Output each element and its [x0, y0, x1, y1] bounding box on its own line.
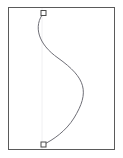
bezier-curve-path[interactable]: [38, 13, 83, 145]
anchor-point-start[interactable]: [41, 11, 46, 16]
vector-graphics-layer: [0, 0, 123, 158]
canvas-app-root: [0, 0, 123, 158]
anchor-point-end[interactable]: [41, 142, 46, 147]
